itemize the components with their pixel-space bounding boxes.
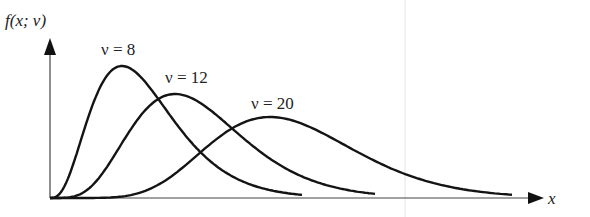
y-axis-label: f(x; ν) xyxy=(5,11,46,30)
label-nu-12: ν = 12 xyxy=(165,68,208,87)
chi-square-chart: f(x; ν) x ν = 8 ν = 12 ν = 20 xyxy=(0,0,590,217)
y-axis-arrow-icon xyxy=(44,38,56,55)
label-nu-20: ν = 20 xyxy=(251,94,294,113)
x-axis-arrow-icon xyxy=(528,192,544,204)
curve-nu-20 xyxy=(50,117,512,198)
x-axis-label: x xyxy=(547,189,556,208)
label-nu-8: ν = 8 xyxy=(101,40,135,59)
curve-nu-12 xyxy=(50,94,375,198)
